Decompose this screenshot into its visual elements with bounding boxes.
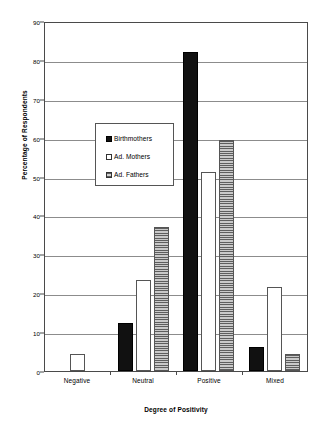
bar-slot xyxy=(70,23,85,371)
legend-item-ad-mothers[interactable]: Ad. Mothers xyxy=(106,148,173,165)
x-tick-mark xyxy=(110,371,111,375)
bar-slot xyxy=(267,23,282,371)
y-tick-label: 60 xyxy=(14,135,40,142)
bar-group-negative xyxy=(45,23,111,371)
legend-swatch-icon xyxy=(106,136,112,142)
x-tick-label-mixed: Mixed xyxy=(242,377,308,391)
y-tick-label: 90 xyxy=(14,19,40,26)
bar-group-positive xyxy=(176,23,242,371)
legend-item-ad-fathers[interactable]: Ad. Fathers xyxy=(106,166,173,183)
y-tick-label: 30 xyxy=(14,252,40,259)
x-tick-label-positive: Positive xyxy=(176,377,242,391)
bar-birthmothers-positive[interactable] xyxy=(183,52,198,371)
legend-label: Ad. Mothers xyxy=(114,153,150,160)
bar-ad-mothers-mixed[interactable] xyxy=(267,287,282,371)
bar-chart: Percentage of Respondents 01020304050607… xyxy=(0,0,329,432)
bar-ad-mothers-positive[interactable] xyxy=(201,172,216,372)
legend-label: Ad. Fathers xyxy=(114,171,149,178)
plot-area: BirthmothersAd. MothersAd. Fathers xyxy=(44,22,308,372)
bar-ad-fathers-positive[interactable] xyxy=(219,140,234,371)
bar-slot xyxy=(88,23,103,371)
bar-birthmothers-mixed[interactable] xyxy=(249,347,264,372)
legend-item-birthmothers[interactable]: Birthmothers xyxy=(106,130,173,147)
bar-ad-mothers-neutral[interactable] xyxy=(136,280,151,371)
legend-label: Birthmothers xyxy=(114,135,152,142)
x-tick-label-neutral: Neutral xyxy=(110,377,176,391)
bar-groups xyxy=(45,23,307,371)
legend-swatch-icon xyxy=(106,154,112,160)
legend-swatch-icon xyxy=(106,172,112,178)
bar-slot xyxy=(136,23,151,371)
bar-slot xyxy=(285,23,300,371)
bar-slot xyxy=(118,23,133,371)
y-tick-label: 0 xyxy=(14,369,40,376)
y-tick-label: 40 xyxy=(14,213,40,220)
x-tick-mark xyxy=(242,371,243,375)
bar-birthmothers-neutral[interactable] xyxy=(118,323,133,371)
y-tick-label: 20 xyxy=(14,291,40,298)
bar-group-neutral xyxy=(111,23,177,371)
x-tick-mark xyxy=(176,371,177,375)
chart-legend: BirthmothersAd. MothersAd. Fathers xyxy=(95,123,174,186)
bar-slot xyxy=(154,23,169,371)
bar-slot xyxy=(201,23,216,371)
bar-ad-fathers-mixed[interactable] xyxy=(285,354,300,372)
bar-slot xyxy=(249,23,264,371)
y-axis-ticks: 0102030405060708090 xyxy=(10,22,40,372)
bar-group-mixed xyxy=(242,23,308,371)
y-tick-label: 50 xyxy=(14,174,40,181)
bar-slot xyxy=(183,23,198,371)
bar-slot xyxy=(52,23,67,371)
y-tick-label: 10 xyxy=(14,330,40,337)
bar-ad-mothers-negative[interactable] xyxy=(70,354,85,372)
y-tick-label: 70 xyxy=(14,96,40,103)
x-axis-title: Degree of Positivity xyxy=(44,406,308,413)
x-axis-labels: NegativeNeutralPositiveMixed xyxy=(44,377,308,391)
y-tick-label: 80 xyxy=(14,57,40,64)
x-tick-label-negative: Negative xyxy=(44,377,110,391)
bar-slot xyxy=(219,23,234,371)
bar-ad-fathers-neutral[interactable] xyxy=(154,227,169,371)
